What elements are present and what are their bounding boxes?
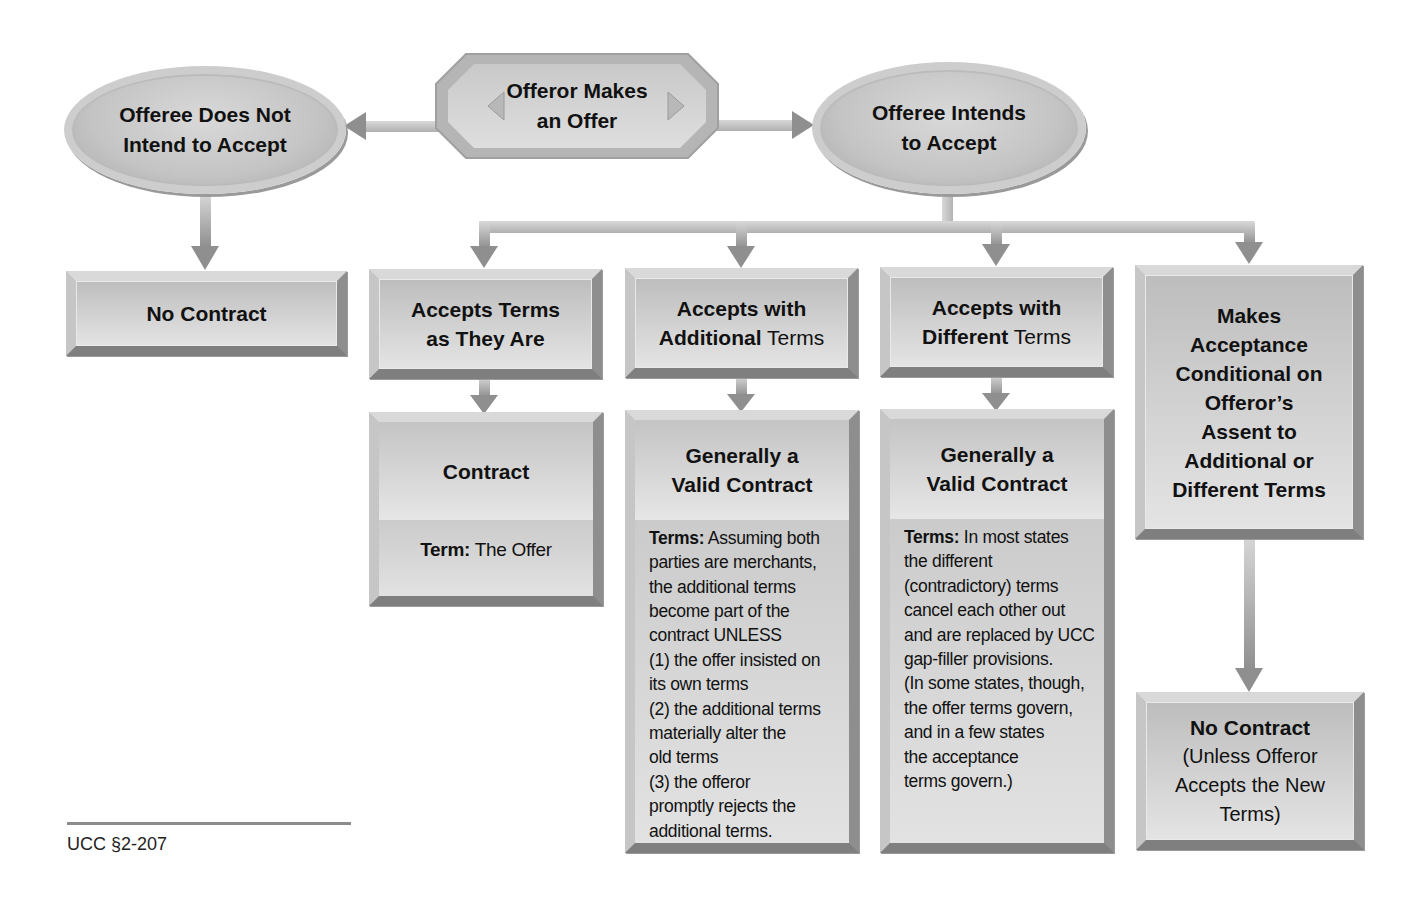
node-label: Offeror Makes: [506, 76, 647, 106]
terms-label: Terms:: [649, 528, 704, 548]
node-label: Terms: [762, 326, 825, 349]
node-label: to Accept: [902, 128, 997, 158]
terms-line: (contradictory) terms: [904, 574, 1096, 598]
node-label: Generally a: [685, 441, 798, 470]
terms-line: (1) the offer insisted on: [649, 648, 841, 672]
terms-line: materially alter the: [649, 721, 841, 745]
terms-line: contract UNLESS: [649, 623, 841, 647]
term-value: The Offer: [470, 539, 552, 560]
terms-line: old terms: [649, 745, 841, 769]
terms-line: additional terms.: [649, 819, 841, 843]
terms-line: parties are merchants,: [649, 550, 841, 574]
citation: UCC §2-207: [67, 834, 167, 855]
arrow-different-to-valid: [982, 375, 1010, 411]
node-label: Conditional on: [1176, 359, 1323, 388]
terms-label: Terms:: [904, 527, 959, 547]
node-offeree-intends: Offeree Intends to Accept: [812, 62, 1086, 194]
terms-line: and in a few states: [904, 720, 1096, 744]
node-label: Accepts with: [677, 294, 807, 323]
node-label: Contract: [443, 457, 529, 486]
node-label: Offeror’s: [1205, 388, 1294, 417]
terms-line: the offer terms govern,: [904, 696, 1096, 720]
terms-line: promptly rejects the: [649, 794, 841, 818]
node-label: an Offer: [537, 106, 618, 136]
node-label: No Contract: [1190, 713, 1310, 742]
node-label: Different Terms: [1172, 475, 1326, 504]
terms-line: the different: [904, 549, 1096, 573]
node-label: Generally a: [940, 440, 1053, 469]
node-label: Intend to Accept: [123, 130, 287, 160]
node-accepts-different-terms: Accepts with Different Terms: [880, 267, 1113, 377]
terms-description: Terms: Assuming both parties are merchan…: [635, 520, 849, 843]
terms-line: (In some states, though,: [904, 671, 1096, 695]
terms-line: In most states: [959, 527, 1068, 547]
terms-line: Assuming both: [704, 528, 819, 548]
node-label: Accepts Terms: [411, 295, 560, 324]
footer-divider: [67, 822, 351, 825]
node-no-contract-left: No Contract: [66, 271, 347, 356]
arrow-offeror-to-not-intend: [344, 112, 440, 140]
node-sublabel: (Unless Offeror: [1182, 742, 1317, 771]
node-conditional-acceptance: Makes Acceptance Conditional on Offeror’…: [1135, 265, 1363, 539]
node-label-emphasis: Additional: [659, 326, 762, 349]
terms-line: gap-filler provisions.: [904, 647, 1096, 671]
node-label: Assent to: [1201, 417, 1297, 446]
arrow-conditional-to-no-contract: [1235, 537, 1263, 692]
arrow-additional-to-valid: [727, 376, 755, 412]
node-offeror-makes-offer: Offeror Makes an Offer: [434, 52, 720, 160]
node-label: Acceptance: [1190, 330, 1308, 359]
terms-line: become part of the: [649, 599, 841, 623]
arrow-offeror-to-intends: [716, 111, 814, 139]
terms-line: the additional terms: [649, 575, 841, 599]
node-contract: Contract Term: The Offer: [369, 412, 603, 606]
node-valid-contract-different: Generally a Valid Contract Terms: In mos…: [880, 409, 1114, 853]
node-label: Offeree Intends: [872, 98, 1026, 128]
terms-line: its own terms: [649, 672, 841, 696]
node-label: Offeree Does Not: [119, 100, 291, 130]
node-valid-contract-additional: Generally a Valid Contract Terms: Assumi…: [625, 410, 859, 853]
node-label: Makes: [1217, 301, 1281, 330]
arrow-not-intend-to-no-contract: [191, 195, 219, 270]
node-label: No Contract: [146, 299, 266, 328]
node-label: as They Are: [426, 324, 544, 353]
node-label: Valid Contract: [926, 469, 1067, 498]
terms-line: and are replaced by UCC: [904, 623, 1096, 647]
terms-line: (3) the offeror: [649, 770, 841, 794]
node-offeree-not-intend: Offeree Does Not Intend to Accept: [64, 66, 346, 194]
terms-line: cancel each other out: [904, 598, 1096, 622]
node-label-emphasis: Different: [922, 325, 1008, 348]
terms-line: the acceptance: [904, 745, 1096, 769]
terms-description: Terms: In most states the different (con…: [890, 519, 1104, 843]
terms-line: (2) the additional terms: [649, 697, 841, 721]
term-label: Term:: [420, 539, 470, 560]
node-sublabel: Accepts the New: [1175, 771, 1325, 800]
arrow-as-is-to-contract: [470, 377, 498, 414]
node-label: Valid Contract: [671, 470, 812, 499]
node-label: Terms: [1008, 325, 1071, 348]
node-no-contract-right: No Contract (Unless Offeror Accepts the …: [1136, 692, 1364, 850]
terms-line: terms govern.): [904, 769, 1096, 793]
node-sublabel: Terms): [1219, 800, 1280, 829]
node-accepts-additional-terms: Accepts with Additional Terms: [625, 268, 858, 378]
node-accepts-terms-as-is: Accepts Terms as They Are: [369, 269, 602, 379]
node-label: Additional or: [1184, 446, 1314, 475]
node-label: Accepts with: [932, 293, 1062, 322]
